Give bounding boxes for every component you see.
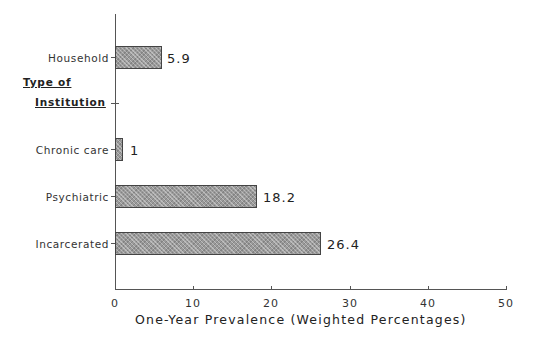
bar-household [115,46,162,69]
x-tick-label: 30 [342,297,358,310]
x-tick [428,286,429,290]
x-tick-label: 0 [111,297,119,310]
y-tick [111,103,119,104]
value-label-chronic-care: 1 [130,143,139,158]
x-tick [506,286,507,290]
x-tick [271,286,272,290]
x-tick-label: 40 [420,297,436,310]
x-axis-title: One-Year Prevalence (Weighted Percentage… [135,312,515,327]
x-tick-label: 10 [185,297,201,310]
x-tick [350,286,351,290]
category-label-psychiatric: Psychiatric [46,191,109,203]
value-label-psychiatric: 18.2 [263,190,296,205]
bar-incarcerated [115,232,321,255]
x-tick-label: 20 [263,297,279,310]
bar-psychiatric [115,185,257,208]
y-axis-title-line1: Type of [23,76,71,88]
category-label-chronic-care: Chronic care [36,144,109,156]
category-label-incarcerated: Incarcerated [36,238,109,250]
category-label-household: Household [48,52,109,64]
x-axis [115,289,507,290]
x-tick [193,286,194,290]
value-label-household: 5.9 [167,51,191,66]
bar-chart: Type of Institution Household Chronic ca… [0,0,539,339]
x-tick-label: 50 [498,297,514,310]
bar-chronic-care [115,138,123,161]
value-label-incarcerated: 26.4 [327,237,360,252]
y-axis-title-line2: Institution [35,96,106,108]
x-tick [115,286,116,290]
